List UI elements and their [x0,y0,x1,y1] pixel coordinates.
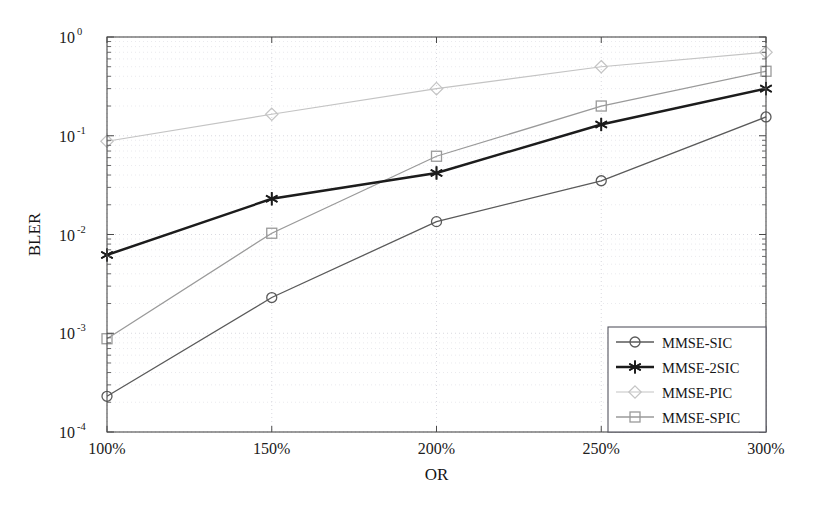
y-tick-label-exponent: -2 [77,224,86,235]
legend-label: MMSE-PIC [662,385,732,401]
legend-label: MMSE-SPIC [662,410,740,426]
x-tick-label: 200% [418,440,455,457]
y-tick-label: 10 [59,325,75,342]
chart-legend[interactable]: MMSE-SICMMSE-2SICMMSE-PICMMSE-SPIC [608,327,766,432]
legend-label: MMSE-SIC [662,335,732,351]
x-tick-label: 100% [88,440,125,457]
bler-vs-or-line-chart: 10010-110-210-310-4100%150%200%250%300% … [0,0,824,515]
legend-label: MMSE-2SIC [662,360,739,376]
y-tick-label-exponent: -3 [77,322,86,333]
x-tick-label: 300% [747,440,784,457]
y-tick-label: 10 [59,128,75,145]
y-tick-label-exponent: -4 [77,421,86,432]
x-tick-label: 250% [583,440,620,457]
x-axis-label: OR [425,465,449,484]
chart-figure: 10010-110-210-310-4100%150%200%250%300% … [0,0,824,515]
x-tick-label: 150% [253,440,290,457]
y-tick-label-exponent: 0 [77,26,82,37]
y-tick-label: 10 [59,29,75,46]
series-mmse-spic [102,66,771,343]
legend-entry[interactable]: MMSE-2SIC [616,360,739,376]
y-axis-label: BLER [25,212,44,256]
y-tick-label: 10 [59,424,75,441]
y-tick-label: 10 [59,227,75,244]
y-tick-label-exponent: -1 [77,125,86,136]
